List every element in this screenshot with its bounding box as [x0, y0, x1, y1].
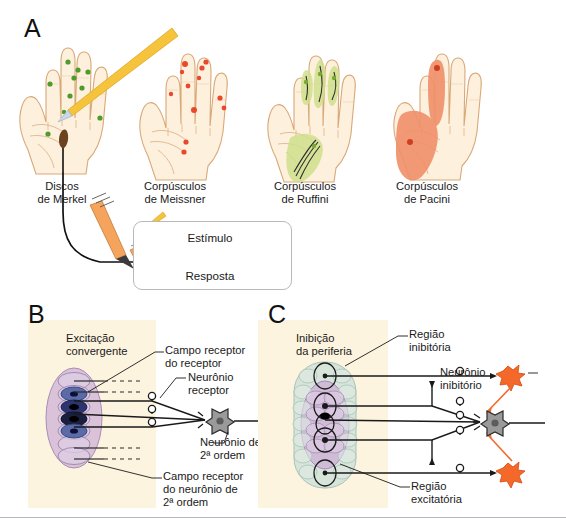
- label-regiao-excitatoria: Região excitatória: [411, 480, 521, 506]
- label-neuronio-inibitorio: Neurônio inibitório: [440, 366, 550, 392]
- panel-c-graphics: [0, 0, 566, 527]
- second-order-neuron-c: [481, 411, 545, 436]
- panel-c-title: Inibição da periferia: [296, 332, 384, 358]
- figure-root: A: [0, 0, 566, 527]
- label-regiao-inibitoria: Região inibitória: [409, 328, 509, 354]
- bottom-divider: [0, 517, 566, 518]
